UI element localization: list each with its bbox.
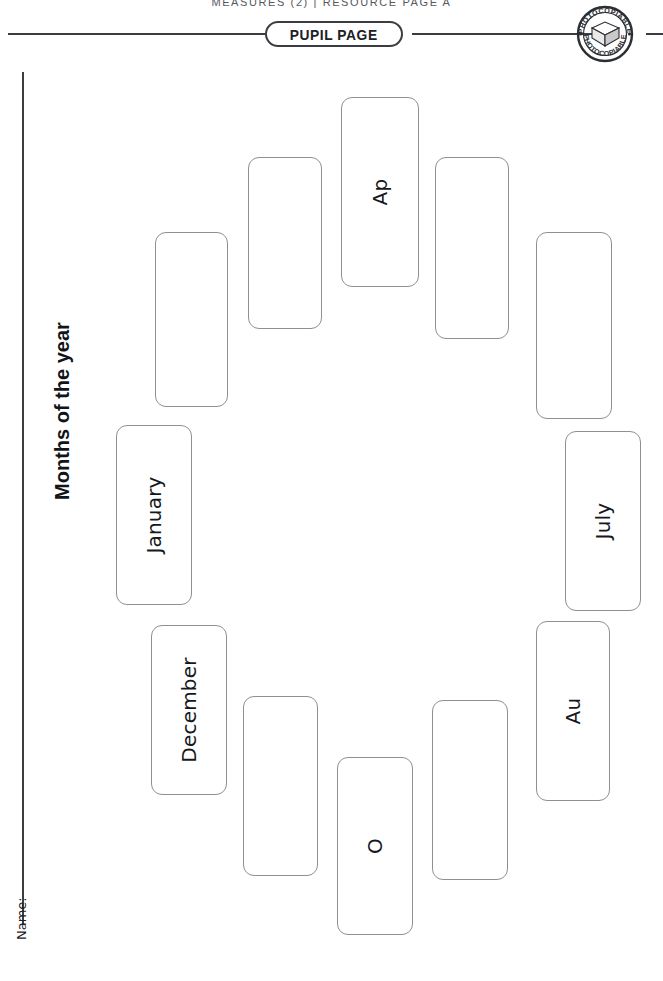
name-label: Name: — [11, 880, 31, 940]
month-box-left-mid[interactable]: January — [116, 425, 192, 605]
header-rule-left-segment — [8, 33, 273, 35]
month-box-label: Au — [561, 698, 585, 725]
month-box-right-upper[interactable] — [536, 232, 612, 419]
month-box-label: O — [363, 838, 387, 854]
month-box-left-upper[interactable] — [155, 232, 228, 407]
name-write-line[interactable] — [22, 72, 24, 925]
worksheet-page: MEASURES (2) | RESOURCE PAGE A PUPIL PAG… — [0, 0, 663, 981]
month-box-label: July — [591, 503, 615, 540]
header-rule-right-segment — [646, 33, 663, 35]
month-box-upper-left[interactable] — [248, 157, 322, 329]
pupil-page-label: PUPIL PAGE — [290, 26, 378, 43]
month-box-left-lower[interactable]: December — [151, 625, 227, 795]
month-box-label: December — [177, 657, 201, 762]
photocopiable-stamp-icon: PHOTOCOPIABLE PHOTOCOPIABLE — [573, 2, 637, 66]
month-box-lower-right[interactable] — [432, 700, 508, 880]
page-title: Months of the year — [47, 296, 77, 526]
month-box-lower-left[interactable] — [243, 696, 318, 876]
month-box-right-mid[interactable]: July — [565, 431, 641, 611]
month-box-label: Ap — [368, 179, 392, 206]
month-box-upper-right[interactable] — [435, 157, 509, 339]
month-box-label: January — [142, 476, 166, 553]
month-box-bottom[interactable]: O — [337, 757, 413, 935]
month-box-top[interactable]: Ap — [341, 97, 419, 287]
month-box-right-lower[interactable]: Au — [536, 621, 610, 801]
pupil-page-badge: PUPIL PAGE — [265, 21, 403, 47]
header-caption: MEASURES (2) | RESOURCE PAGE A — [0, 0, 663, 8]
